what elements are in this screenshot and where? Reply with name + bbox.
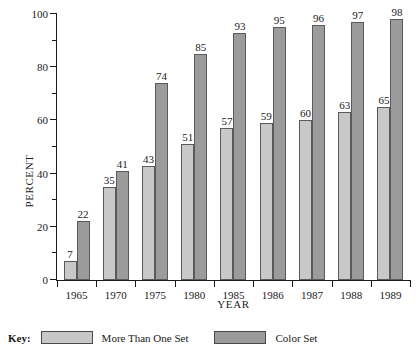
bar-value-label: 22	[78, 209, 89, 220]
bar-value-label: 35	[104, 175, 115, 186]
x-tick	[135, 280, 136, 287]
legend-label: More Than One Set	[102, 332, 189, 344]
y-axis-title: PERCENT	[23, 154, 35, 207]
y-tick-label: 80	[37, 62, 48, 73]
y-tick-label: 100	[32, 9, 49, 20]
bar-value-label: 97	[352, 10, 363, 21]
bar-group: 4374	[135, 14, 174, 280]
bar-value-label: 43	[143, 154, 154, 165]
legend-swatch	[41, 331, 93, 344]
x-tick	[410, 280, 411, 287]
bar-value-label: 57	[221, 116, 232, 127]
bar-group: 5995	[253, 14, 292, 280]
y-tick-major	[50, 279, 57, 280]
x-tick	[214, 280, 215, 287]
y-tick-label: 60	[37, 115, 48, 126]
legend-key-label: Key:	[8, 332, 31, 344]
x-axis-line	[56, 280, 411, 281]
bar: 98	[390, 19, 403, 280]
bar: 43	[142, 166, 155, 280]
bar-value-label: 7	[67, 249, 73, 260]
bar: 63	[338, 112, 351, 280]
legend-entry: Color Set	[214, 331, 317, 344]
bar-group: 722	[57, 14, 96, 280]
bar: 22	[77, 221, 90, 280]
legend-entries: More Than One SetColor Set	[41, 331, 344, 344]
bar: 65	[377, 107, 390, 280]
y-tick-major	[50, 226, 57, 227]
bar-value-label: 85	[195, 42, 206, 53]
bar: 96	[312, 25, 325, 280]
bar-group: 6096	[292, 14, 331, 280]
y-tick-label: 0	[43, 275, 49, 286]
x-tick	[292, 280, 293, 287]
legend-entry: More Than One Set	[41, 331, 189, 344]
bar-value-label: 60	[300, 108, 311, 119]
bar: 51	[181, 144, 194, 280]
bar-value-label: 63	[339, 100, 350, 111]
bar-value-label: 95	[274, 15, 285, 26]
bar-value-label: 93	[234, 21, 245, 32]
bar: 59	[260, 123, 273, 280]
bar: 35	[103, 187, 116, 280]
bar-group: 6598	[371, 14, 410, 280]
y-tick-major	[50, 119, 57, 120]
y-tick-major	[50, 173, 57, 174]
bar: 97	[351, 22, 364, 280]
bar: 93	[233, 33, 246, 280]
chart-legend: Key: More Than One SetColor Set	[8, 331, 343, 344]
bar-value-label: 74	[156, 71, 167, 82]
bar-group: 5793	[214, 14, 253, 280]
y-tick-major	[50, 13, 57, 14]
bar: 95	[273, 27, 286, 280]
x-tick	[253, 280, 254, 287]
bar: 7	[64, 261, 77, 280]
x-tick	[175, 280, 176, 287]
bar-group: 3541	[96, 14, 135, 280]
chart-page: PERCENT 020406080100 7223541437451855793…	[0, 0, 419, 361]
legend-label: Color Set	[275, 332, 317, 344]
bar: 85	[194, 54, 207, 280]
y-tick-label: 20	[37, 221, 48, 232]
bar-value-label: 51	[182, 132, 193, 143]
bar-value-label: 41	[117, 159, 128, 170]
x-tick	[371, 280, 372, 287]
bar-group: 6397	[332, 14, 371, 280]
plot-area: 020406080100 722354143745185579359956096…	[57, 14, 410, 280]
x-axis-title: YEAR	[57, 298, 410, 310]
bar-value-label: 59	[261, 111, 272, 122]
bar: 41	[116, 171, 129, 280]
bar-value-label: 98	[391, 7, 402, 18]
legend-swatch	[214, 331, 266, 344]
bar: 74	[155, 83, 168, 280]
bar-value-label: 65	[378, 95, 389, 106]
x-tick	[96, 280, 97, 287]
bar-group: 5185	[175, 14, 214, 280]
bar-value-label: 96	[313, 13, 324, 24]
x-tick	[332, 280, 333, 287]
x-tick	[57, 280, 58, 287]
y-tick-major	[50, 66, 57, 67]
y-tick-label: 40	[37, 168, 48, 179]
bar: 60	[299, 120, 312, 280]
bar: 57	[220, 128, 233, 280]
